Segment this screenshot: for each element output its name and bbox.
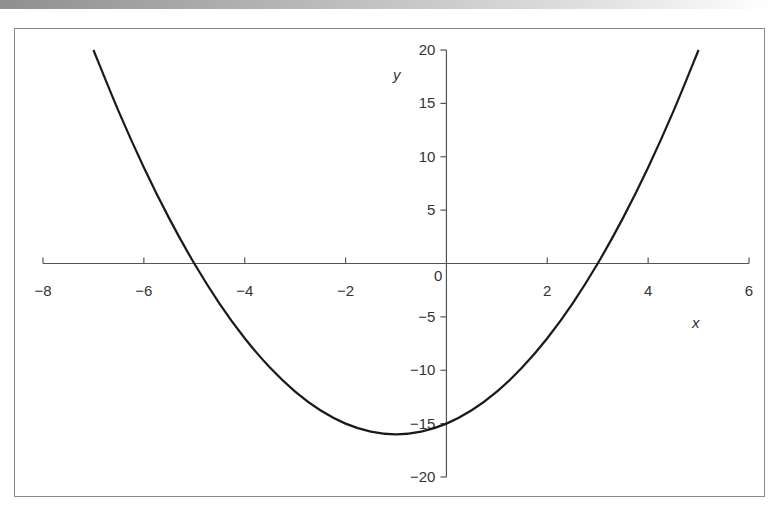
y-tick-label: −5 (418, 308, 435, 325)
x-axis-label: x (691, 314, 700, 331)
parabola-chart: −8−6−4−22462015105−5−10−15−200 x y (0, 0, 770, 507)
x-tick-label: −6 (135, 282, 152, 299)
y-axis-label: y (392, 66, 402, 83)
x-tick-label: 4 (644, 282, 652, 299)
y-tick-label: 10 (419, 148, 436, 165)
axes (43, 50, 749, 477)
x-tick-label: −4 (236, 282, 253, 299)
parabola-curve (93, 50, 698, 434)
x-tick-label: −2 (337, 282, 354, 299)
y-tick-label: 20 (419, 41, 436, 58)
y-tick-label: −20 (410, 468, 435, 485)
y-tick-label: −10 (410, 361, 435, 378)
y-tick-label: 15 (419, 94, 436, 111)
x-tick-label: −8 (34, 282, 51, 299)
x-tick-label: 6 (745, 282, 753, 299)
origin-label: 0 (434, 267, 442, 284)
x-tick-label: 2 (543, 282, 551, 299)
y-tick-label: 5 (427, 201, 435, 218)
